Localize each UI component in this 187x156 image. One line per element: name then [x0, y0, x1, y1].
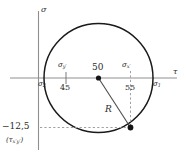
- tau-axis-label: τ: [173, 68, 177, 76]
- sigma-x-prime-subscript: x′: [127, 63, 131, 69]
- sigma-1-label: σ1: [153, 81, 161, 88]
- center-point-marker: [96, 75, 101, 80]
- sigma-axis-label: σ: [41, 6, 46, 14]
- mohrs-circle-plot: [0, 0, 187, 156]
- sigma-x-prime-value: 55: [125, 84, 135, 92]
- sigma-y-prime-subscript: y′: [63, 63, 67, 69]
- center-value-label: 50: [92, 63, 103, 72]
- sigma-2-subscript: 2: [43, 82, 46, 88]
- tau-label-paren-close: ): [21, 136, 24, 144]
- tau-value-label: −12,5: [2, 122, 30, 131]
- sigma-1-subscript: 1: [158, 82, 161, 88]
- tau-xy-prime-label: (τx′y′): [6, 137, 23, 144]
- stress-point-marker: [128, 125, 134, 131]
- tau-subscript: x′y′: [13, 138, 21, 144]
- sigma-2-label: σ2: [38, 81, 46, 88]
- mohrs-circle-figure: σ τ σ2 σ1 σy′ σx′ 45 50 55 R −12,5 (τx′y…: [0, 0, 187, 156]
- radius-label: R: [105, 105, 112, 114]
- sigma-y-prime-label: σy′: [58, 62, 67, 69]
- sigma-y-prime-value: 45: [60, 84, 70, 92]
- sigma-x-prime-label: σx′: [122, 62, 131, 69]
